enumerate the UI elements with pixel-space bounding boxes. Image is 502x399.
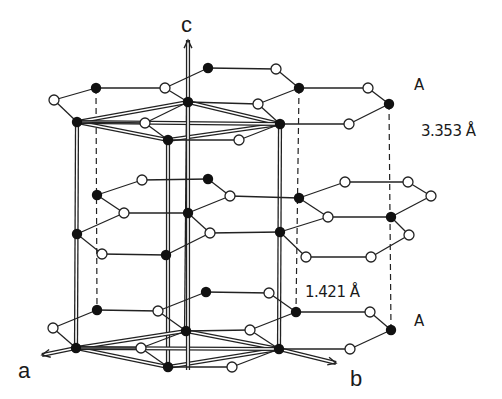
carbon-atom-open-icon [245, 325, 255, 335]
carbon-atom-open-icon [345, 344, 355, 354]
carbon-atom-filled-icon [386, 212, 396, 222]
carbon-atom-filled-icon [163, 135, 173, 145]
c-c-bond [250, 312, 296, 330]
carbon-atom-open-icon [205, 228, 215, 238]
carbon-atom-filled-icon [275, 227, 285, 237]
carbon-atom-filled-icon [181, 326, 191, 336]
interlayer-distance-label: 3.353 Å [421, 122, 475, 140]
carbon-atom-open-icon [227, 362, 237, 372]
carbon-atom-filled-icon [294, 83, 304, 93]
c-c-bond [206, 292, 269, 293]
carbon-atom-filled-icon [72, 229, 82, 239]
c-c-bond [350, 330, 391, 349]
axis-label-a: a [18, 358, 30, 384]
carbon-atom-open-icon [363, 83, 373, 93]
carbon-atom-filled-icon [274, 344, 284, 354]
carbon-atom-open-icon [49, 95, 59, 105]
carbon-atom-filled-icon [203, 174, 213, 184]
layer-label-bottom: A [414, 312, 424, 330]
c-c-bond [158, 292, 206, 311]
carbon-atom-open-icon [153, 306, 163, 316]
carbon-atom-filled-icon [275, 119, 285, 129]
carbon-atom-open-icon [426, 191, 436, 201]
carbon-atom-open-icon [160, 83, 170, 93]
carbon-atom-filled-icon [72, 117, 82, 127]
carbon-atom-open-icon [264, 288, 274, 298]
c-c-bond [54, 88, 96, 100]
carbon-atom-open-icon [48, 323, 58, 333]
carbon-atom-open-icon [253, 99, 263, 109]
c-c-bond [97, 180, 142, 195]
carbon-atom-open-icon [366, 252, 376, 262]
carbon-atom-open-icon [140, 118, 150, 128]
carbon-atom-filled-icon [71, 343, 81, 353]
carbon-atom-filled-icon [183, 97, 193, 107]
carbon-atom-filled-icon [294, 193, 304, 203]
c-c-bond [188, 196, 230, 213]
c-c-bond [280, 217, 328, 232]
carbon-atom-open-icon [340, 177, 350, 187]
carbon-atom-filled-icon [386, 325, 396, 335]
c-c-bond [210, 232, 280, 233]
graphite-structure-diagram [0, 0, 502, 399]
c-c-bond [208, 68, 276, 69]
c-c-bond [299, 182, 345, 198]
carbon-atom-filled-icon [201, 287, 211, 297]
carbon-atom-filled-icon [163, 362, 173, 372]
carbon-atom-open-icon [365, 307, 375, 317]
c-c-bond [391, 196, 431, 217]
carbon-atom-open-icon [344, 119, 354, 129]
carbon-atom-open-icon [301, 252, 311, 262]
c-c-bond [230, 196, 299, 198]
c-c-bond [258, 88, 299, 104]
carbon-atom-open-icon [97, 249, 107, 259]
carbon-atom-filled-icon [92, 190, 102, 200]
carbon-atom-filled-icon [203, 63, 213, 73]
layer-label-top: A [414, 76, 424, 94]
axis-label-b: b [350, 366, 362, 392]
carbon-atom-open-icon [404, 230, 414, 240]
carbon-atom-open-icon [403, 177, 413, 187]
carbon-atom-open-icon [234, 135, 244, 145]
c-c-bond [186, 330, 250, 331]
carbon-atom-filled-icon [183, 208, 193, 218]
c-c-bond [349, 104, 389, 124]
carbon-atom-filled-icon [92, 305, 102, 315]
crystal-axes [42, 40, 336, 370]
carbon-atom-open-icon [119, 208, 129, 218]
c-c-bond [97, 310, 158, 311]
carbon-atom-filled-icon [384, 99, 394, 109]
c-c-bond [142, 179, 208, 180]
axis-label-c: c [181, 12, 192, 38]
carbon-atom-open-icon [271, 64, 281, 74]
carbon-atom-filled-icon [91, 83, 101, 93]
carbon-atom-filled-icon [291, 307, 301, 317]
carbon-atom-open-icon [137, 175, 147, 185]
bond-length-label: 1.421 Å [305, 283, 359, 301]
c-c-bond [102, 254, 166, 255]
carbon-atom-open-icon [136, 343, 146, 353]
carbon-atom-open-icon [225, 191, 235, 201]
c-c-bond [77, 213, 124, 234]
carbon-atom-filled-icon [161, 250, 171, 260]
carbon-atom-open-icon [323, 212, 333, 222]
